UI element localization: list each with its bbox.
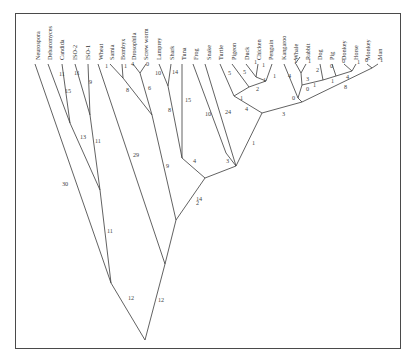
tree-branch [110,64,123,78]
taxon-label-penguin: Penguin [267,40,274,60]
branch-length-label: 3 [226,157,229,164]
tree-branch [88,64,90,115]
taxon-label-iso2: ISO-2 [71,45,78,60]
tree-branches [35,57,378,340]
tree-branch [256,64,258,77]
tree-branch [100,190,111,283]
tree-branch [152,115,176,220]
taxon-label-kangaroo: Kangaroo [280,36,287,60]
taxon-label-samia: Samia [108,44,115,60]
branch-length-label: 0 [146,60,149,67]
tree-branch [168,64,171,86]
tree-branch [284,64,298,98]
branch-length-label: 12 [158,296,164,303]
taxon-label-dog: Dog [316,49,323,60]
taxon-label-lamprey: Lamprey [155,37,162,60]
taxon-label-pig: Pig [328,52,335,60]
taxon-label-frog: Frog [192,48,199,60]
taxon-label-shark: Shark [168,45,175,60]
branch-length-label: 1 [105,62,108,69]
branch-length-label: 9 [166,162,169,169]
taxon-label-wheat: Wheat [97,44,104,60]
tree-branch [301,64,306,73]
branch-length-label: 4 [131,60,134,67]
branch-length-label: 1 [262,61,265,68]
branch-length-label: 3 [282,110,285,117]
taxon-label-turtle: Turtle [217,45,224,60]
branch-length-label: 14 [172,68,178,75]
tree-branch [193,64,226,153]
taxon-label-neurospora: Neurospora [34,31,41,60]
branch-length-label: 1 [263,76,266,83]
branch-length-label: 24 [225,108,231,115]
branch-length-label: 0 [330,62,333,69]
branch-length-label: 10 [205,110,211,117]
tree-branch [165,220,176,264]
tree-branch [320,64,323,80]
taxon-label-tuna: Tuna [180,47,187,60]
taxon-label-screwworm: Screw worm [142,28,149,60]
tree-branch [35,64,111,283]
tree-branch [298,85,302,98]
taxon-label-rabbit: Rabbit [304,43,311,60]
taxon-label-donkey: Donkey [340,40,347,60]
tree-branch [352,64,356,71]
branch-length-label: 10 [155,69,161,76]
tree-branch [122,64,123,78]
taxon-label-iso1: ISO-1 [84,45,91,60]
tree-branch [98,64,165,264]
branch-length-label: 12 [128,294,134,301]
tree-branch [298,98,302,102]
branch-length-label: 1 [124,62,127,69]
taxon-label-drosophila: Drosophila [130,32,137,60]
branch-length-label: 0 [292,94,295,101]
tree-branch [140,73,152,115]
branch-length-label: 4 [245,105,248,112]
branch-length-label: 2 [256,85,259,92]
branch-length-label: 1 [273,72,276,79]
branch-length-label: 8 [344,83,347,90]
taxon-labels: NeurosporaDebaromycesCandidaISO-2ISO-1Wh… [34,25,383,60]
branch-length-label: 11 [74,69,80,76]
branch-length-label: 4 [193,157,196,164]
branch-length-label: 14 [196,195,202,202]
branch-length-label: 15 [185,96,191,103]
tree-branch [205,166,236,178]
branch-length-label: 1 [252,139,255,146]
taxon-label-man: Man [376,49,383,60]
branch-length-label: 11 [95,137,101,144]
taxon-label-whale: Whale [292,44,299,60]
tree-branch [344,64,352,71]
tree-branch [246,64,256,77]
tree-branch [301,73,302,85]
tree-branch [168,86,182,158]
branch-length-label: 4 [288,72,291,79]
branch-length-label: 6 [148,84,151,91]
tree-branch [236,113,262,166]
tree-branch [232,64,249,87]
branch-length-label: 13 [80,133,86,140]
taxon-label-duck: Duck [243,46,250,60]
tree-branch [296,64,301,73]
taxon-label-debaromyces: Debaromyces [46,25,53,60]
branch-length-label: 11 [59,70,65,77]
branch-length-label: 0 [306,85,309,92]
branch-length-label: 1 [240,94,243,101]
branch-length-label: 11 [107,227,113,234]
tree-branch [220,64,234,96]
tree-branch [266,64,272,81]
branch-length-label: 3 [306,75,309,82]
branch-length-label: 5 [228,69,231,76]
taxon-label-bombyx: Bombyx [119,38,126,60]
taxon-label-pigeon: Pigeon [230,43,237,60]
taxon-label-snake: Snake [205,45,212,60]
tree-branch [367,64,372,68]
tree-branch [111,283,145,340]
taxon-label-candida: Candida [58,39,65,60]
branch-length-label: 1 [313,81,316,88]
branch-length-label: 8 [126,86,129,93]
branch-length-label: 5 [243,68,246,75]
branch-length-label: 15 [65,87,71,94]
branch-length-label: 9 [89,78,92,85]
taxon-label-chicken: Chicken [255,39,262,60]
